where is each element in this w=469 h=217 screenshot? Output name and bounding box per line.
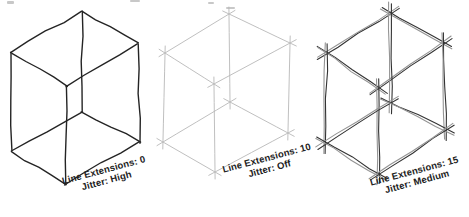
cube-edge xyxy=(229,7,230,109)
cube-edge xyxy=(318,6,399,57)
cube-edge xyxy=(288,36,290,140)
cube-edge xyxy=(379,79,380,183)
cube-edge xyxy=(391,4,392,114)
cube-edge xyxy=(11,11,82,52)
cube-edge xyxy=(318,99,398,150)
cube-edge xyxy=(317,8,399,59)
cube-edge xyxy=(214,77,215,179)
cube-extensions-15-jitter-medium xyxy=(316,2,455,185)
cube-edge xyxy=(224,99,294,137)
cube-edge xyxy=(65,86,67,185)
cube-edge xyxy=(159,10,235,56)
cube-edge xyxy=(81,112,140,142)
cube-edge xyxy=(325,44,328,154)
cube-edge xyxy=(11,112,82,151)
cube-edge xyxy=(316,96,399,146)
cube-edge xyxy=(163,46,165,149)
cube-edge xyxy=(223,11,297,46)
cube-edge xyxy=(159,49,220,87)
cube-edge xyxy=(208,40,296,88)
cube-edge xyxy=(389,2,390,113)
cube-edge xyxy=(370,36,451,93)
cube-edge xyxy=(370,39,452,95)
cube-edge xyxy=(382,8,451,47)
cube-edge xyxy=(377,79,378,185)
cube-edge xyxy=(82,11,138,43)
cube-edge xyxy=(157,98,236,145)
cube-edge xyxy=(11,52,12,150)
cube-edge xyxy=(138,44,140,143)
diagram-canvas: Line Extensions: 0 Jitter: High Line Ext… xyxy=(0,0,469,217)
cube-edge xyxy=(66,44,137,87)
cube-edge xyxy=(81,11,83,111)
cube-edge xyxy=(12,53,68,86)
